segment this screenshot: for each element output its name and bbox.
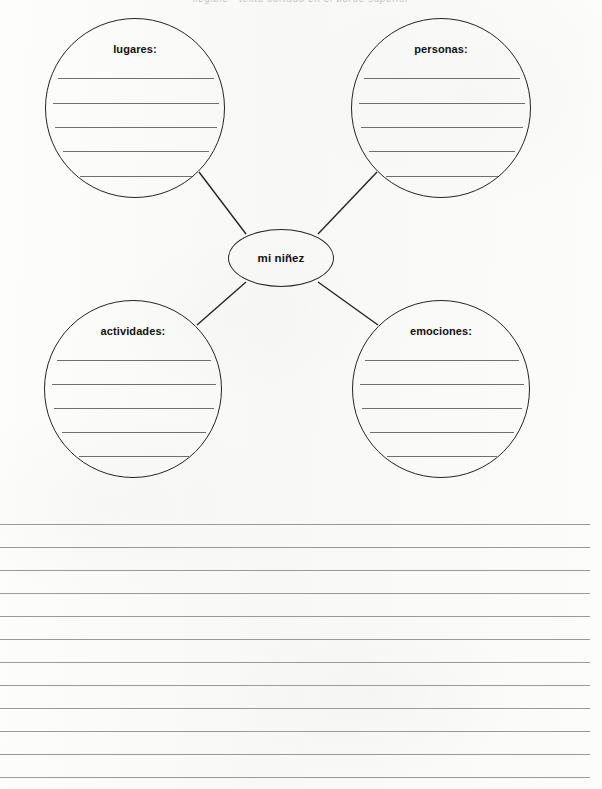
bubble-write-line[interactable] [359,103,524,104]
center-node-label: mi niñez [258,252,305,264]
bubble-emociones: emociones: [352,300,530,478]
writing-line[interactable] [0,731,590,732]
center-node-mi-ninez: mi niñez [228,229,334,287]
writing-line[interactable] [0,754,590,755]
writing-line[interactable] [0,593,590,594]
bubble-write-line[interactable] [54,408,214,409]
writing-line[interactable] [0,639,590,640]
connector-actividades [197,282,246,325]
bubble-write-line[interactable] [58,78,214,79]
writing-line[interactable] [0,547,590,548]
bubble-write-line[interactable] [53,103,218,104]
bubble-label-lugares: lugares: [46,43,224,55]
bubble-label-personas: personas: [352,43,530,55]
writing-line[interactable] [0,685,590,686]
writing-line[interactable] [0,570,590,571]
bubble-write-line[interactable] [360,384,523,385]
bubble-label-actividades: actividades: [45,325,221,337]
bubble-write-line[interactable] [387,456,497,457]
worksheet-page: ilegible - texto cortado en el borde sup… [0,0,602,789]
bubble-write-line[interactable] [80,176,191,177]
connector-personas [318,172,377,234]
writing-line[interactable] [0,777,590,778]
bubble-write-line[interactable] [386,176,497,177]
writing-line[interactable] [0,524,590,525]
writing-line[interactable] [0,662,590,663]
bubble-write-line[interactable] [79,456,189,457]
writing-line[interactable] [0,616,590,617]
connector-emociones [318,282,378,325]
bubble-actividades: actividades: [44,300,222,478]
bubble-label-emociones: emociones: [353,325,529,337]
bubble-personas: personas: [351,18,531,198]
connector-lugares [199,172,246,234]
bubble-write-line[interactable] [55,127,217,128]
bubble-write-line[interactable] [57,360,211,361]
bubble-write-line[interactable] [361,127,523,128]
bubble-write-line[interactable] [365,360,519,361]
writing-line[interactable] [0,708,590,709]
bubble-write-line[interactable] [369,151,515,152]
bubble-write-line[interactable] [63,151,209,152]
bubble-write-line[interactable] [362,408,522,409]
bubble-write-line[interactable] [62,432,207,433]
bubble-write-line[interactable] [52,384,215,385]
bubble-write-line[interactable] [370,432,515,433]
bubble-lugares: lugares: [45,18,225,198]
bubble-write-line[interactable] [364,78,520,79]
